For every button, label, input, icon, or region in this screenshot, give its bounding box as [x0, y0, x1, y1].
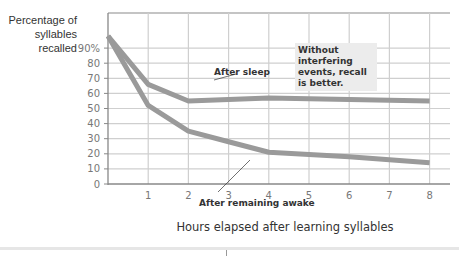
x-axis-title: Hours elapsed after learning syllables — [170, 220, 400, 234]
y-tick-label: 10 — [87, 163, 100, 174]
after-sleep-label: After sleep — [214, 67, 271, 77]
after-awake-label: After remaining awake — [199, 198, 315, 208]
y-tick-label: 30 — [87, 133, 100, 144]
y-tick-label: 60 — [87, 88, 100, 99]
y-tick-label: 80 — [87, 58, 100, 69]
bottom-divider-tick — [226, 250, 227, 256]
x-tick-label: 1 — [145, 190, 151, 201]
bottom-divider — [0, 247, 459, 250]
y-tick-label: 90% — [78, 43, 100, 54]
y-tick-label: 70 — [87, 73, 100, 84]
y-tick-label: 0 — [94, 179, 100, 190]
y-axis-ticks: 0102030405060708090% — [78, 43, 108, 190]
x-tick-label: 6 — [346, 190, 352, 201]
x-tick-label: 8 — [426, 190, 432, 201]
y-tick-label: 40 — [87, 118, 100, 129]
y-tick-label: 20 — [87, 148, 100, 159]
x-tick-label: 7 — [386, 190, 392, 201]
y-tick-label: 50 — [87, 103, 100, 114]
x-tick-label: 2 — [185, 190, 191, 201]
annotation-note: Without interfering events, recall is be… — [295, 43, 377, 91]
